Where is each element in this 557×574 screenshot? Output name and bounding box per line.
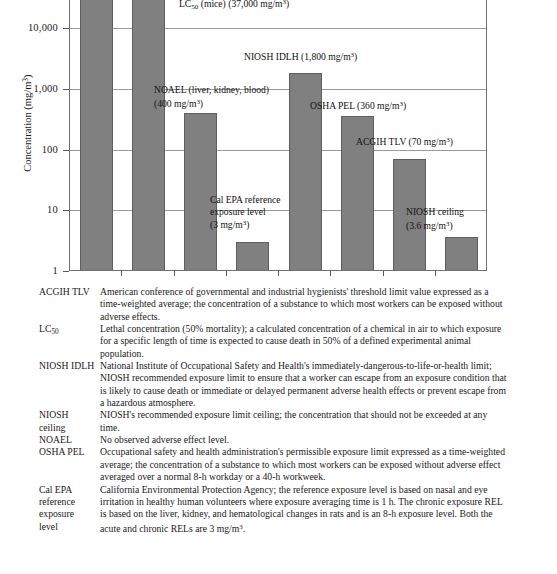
bar-annotation-line: (3.6 mg/m3) xyxy=(406,218,464,231)
y-tick-label: 1,000 xyxy=(0,84,58,94)
glossary-term: ACGIH TLV xyxy=(39,286,100,298)
glossary-term: NOAEL xyxy=(39,434,100,446)
bar-annotation: ACGIH TLV (70 mg/m3) xyxy=(356,134,453,147)
plot-frame: LC50 (mice) (37,000 mg/m3)NOAEL (liver, … xyxy=(69,0,487,271)
bar-annotation: OSHA PEL (360 mg/m3) xyxy=(310,98,406,111)
glossary-definition: American conference of governmental and … xyxy=(100,286,532,323)
glossary-term: NIOSHceiling xyxy=(39,409,100,434)
bar xyxy=(445,237,478,270)
y-tick-label: 1 xyxy=(0,266,58,276)
bar xyxy=(184,113,217,270)
glossary-row: Cal EPAreferenceexposurelevelCalifornia … xyxy=(0,484,557,535)
bar-annotation: LC50 (mice) (37,000 mg/m3) xyxy=(179,0,289,13)
glossary-row: NIOSHceilingNIOSH's recommended exposure… xyxy=(0,409,557,434)
y-axis-title-suffix: ) xyxy=(22,74,33,78)
glossary-definition: NIOSH's recommended exposure limit ceili… xyxy=(100,409,532,434)
glossary-definition: National Institute of Occupational Safet… xyxy=(100,360,532,409)
glossary-term: OSHA PEL xyxy=(39,446,100,458)
bar-annotation-line: NOAEL (liver, kidney, blood) xyxy=(154,84,269,96)
y-axis-title-text: Concentration (mg/m xyxy=(22,82,33,172)
x-tick-mark xyxy=(226,271,227,276)
glossary-definition: Lethal concentration (50% mortality); a … xyxy=(100,323,532,360)
bar-annotation-line: ACGIH TLV (70 mg/m3) xyxy=(356,134,453,147)
glossary-definition: California Environmental Protection Agen… xyxy=(100,484,532,535)
bar xyxy=(236,242,269,270)
x-tick-mark xyxy=(435,271,436,276)
bar xyxy=(132,0,165,270)
bar-annotation-line: NIOSH ceiling xyxy=(406,206,464,218)
bar-annotation: NIOSH ceiling(3.6 mg/m3) xyxy=(406,206,464,231)
x-tick-mark xyxy=(121,271,122,276)
x-tick-mark xyxy=(174,271,175,276)
glossary-row: ACGIH TLVAmerican conference of governme… xyxy=(0,286,557,323)
glossary-row: NIOSH IDLHNational Institute of Occupati… xyxy=(0,360,557,409)
x-tick-mark xyxy=(383,271,384,276)
plot-clip: LC50 (mice) (37,000 mg/m3)NOAEL (liver, … xyxy=(70,0,486,270)
y-tick-label: 10 xyxy=(0,205,58,215)
glossary-definition: Occupational safety and health administr… xyxy=(100,446,532,483)
glossary-definition: No observed adverse effect level. xyxy=(100,434,532,446)
glossary-term: NIOSH IDLH xyxy=(39,360,100,372)
y-tick-mark xyxy=(63,271,69,272)
bar xyxy=(80,0,113,270)
glossary-list: ACGIH TLVAmerican conference of governme… xyxy=(0,286,557,535)
y-axis-title: Concentration (mg/m3) xyxy=(21,33,33,213)
bar-annotation-line: (400 mg/m3) xyxy=(154,96,269,109)
bar-annotation-line: Cal EPA reference xyxy=(210,194,281,206)
glossary-row: NOAELNo observed adverse effect level. xyxy=(0,434,557,446)
y-axis-title-exponent: 3 xyxy=(21,78,30,82)
bar-annotation-line: LC50 (mice) (37,000 mg/m3) xyxy=(179,0,289,13)
figure-caption xyxy=(30,563,530,574)
bar-annotation-line: exposure level xyxy=(210,206,281,218)
bar-annotation-line: OSHA PEL (360 mg/m3) xyxy=(310,98,406,111)
bar-annotation-line: (3 mg/m3) xyxy=(210,217,281,230)
chart-figure: Concentration (mg/m3) 10,0001,000100101 … xyxy=(0,0,557,282)
y-tick-label: 100 xyxy=(0,145,58,155)
glossary-row: OSHA PELOccupational safety and health a… xyxy=(0,446,557,483)
y-tick-label: 10,000 xyxy=(0,23,58,33)
bar-annotation-line: NIOSH IDLH (1,800 mg/m3) xyxy=(244,49,357,62)
x-tick-mark xyxy=(278,271,279,276)
bar-annotation: Cal EPA referenceexposure level(3 mg/m3) xyxy=(210,194,281,231)
bar-annotation: NIOSH IDLH (1,800 mg/m3) xyxy=(244,49,357,62)
glossary-term: LC50 xyxy=(39,323,100,338)
bar-annotation: NOAEL (liver, kidney, blood)(400 mg/m3) xyxy=(154,84,269,109)
x-tick-mark xyxy=(330,271,331,276)
glossary-term: Cal EPAreferenceexposurelevel xyxy=(39,484,100,533)
glossary-row: LC50Lethal concentration (50% mortality)… xyxy=(0,323,557,360)
